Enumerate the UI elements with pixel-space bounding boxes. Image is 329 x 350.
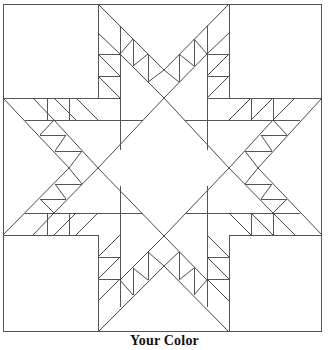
quilt-pattern-diagram bbox=[0, 0, 329, 335]
pattern-caption: Your Color bbox=[0, 333, 329, 349]
right-arm bbox=[207, 98, 322, 235]
center-diamond bbox=[98, 98, 229, 236]
left-arm bbox=[3, 98, 120, 235]
top-arm bbox=[98, 4, 229, 120]
corner-squares bbox=[3, 4, 322, 332]
outer-frame bbox=[4, 5, 322, 332]
bottom-arm bbox=[98, 213, 229, 332]
